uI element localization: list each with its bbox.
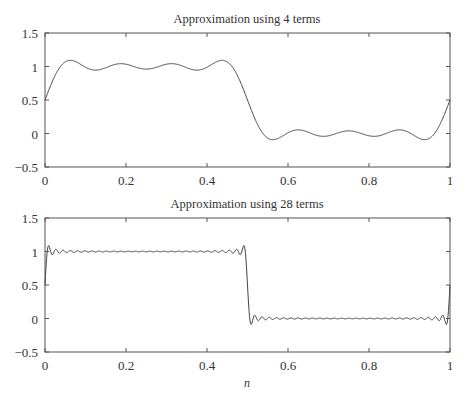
- x-tick-label: 0.4: [199, 173, 216, 188]
- y-tick-label: 0: [32, 127, 39, 142]
- y-tick-label: 0.5: [22, 93, 38, 108]
- x-tick-label: 0.8: [361, 358, 377, 373]
- x-tick-label: 0.2: [118, 358, 134, 373]
- y-tick-label: 1: [32, 60, 39, 75]
- y-tick-label: −0.5: [14, 345, 38, 360]
- subplot-28-terms: Approximation using 28 terms 1.5 1 0.5 0…: [14, 197, 453, 390]
- x-tick-label: 0: [42, 173, 49, 188]
- x-tick-label: 1: [447, 358, 454, 373]
- y-tick-label: 1.5: [22, 26, 38, 41]
- y-tick-label: −0.5: [14, 160, 38, 175]
- series-line: [45, 246, 450, 325]
- x-tick-label: 0.8: [361, 173, 377, 188]
- y-tick-labels: 1.5 1 0.5 0 −0.5: [14, 26, 38, 175]
- subplot-title: Approximation using 28 terms: [170, 197, 323, 211]
- subplot-title: Approximation using 4 terms: [174, 12, 321, 26]
- y-tick-label: 0.5: [22, 278, 38, 293]
- y-tick-label: 1: [32, 245, 39, 260]
- x-tick-labels: 0 0.2 0.4 0.6 0.8 1: [42, 173, 454, 188]
- y-tick-label: 0: [32, 312, 39, 327]
- y-tick-label: 1.5: [22, 211, 38, 226]
- y-tick-labels: 1.5 1 0.5 0 −0.5: [14, 211, 38, 360]
- x-tick-label: 1: [447, 173, 454, 188]
- x-tick-label: 0: [42, 358, 49, 373]
- figure: Approximation using 4 terms 1.5 1 0.5 0 …: [0, 0, 469, 402]
- x-tick-label: 0.2: [118, 173, 134, 188]
- x-axis-label: n: [244, 376, 250, 390]
- x-tick-labels: 0 0.2 0.4 0.6 0.8 1: [42, 358, 454, 373]
- x-tick-label: 0.6: [280, 358, 297, 373]
- series-line: [45, 60, 450, 139]
- x-tick-label: 0.4: [199, 358, 216, 373]
- x-tick-label: 0.6: [280, 173, 297, 188]
- subplot-4-terms: Approximation using 4 terms 1.5 1 0.5 0 …: [14, 12, 453, 188]
